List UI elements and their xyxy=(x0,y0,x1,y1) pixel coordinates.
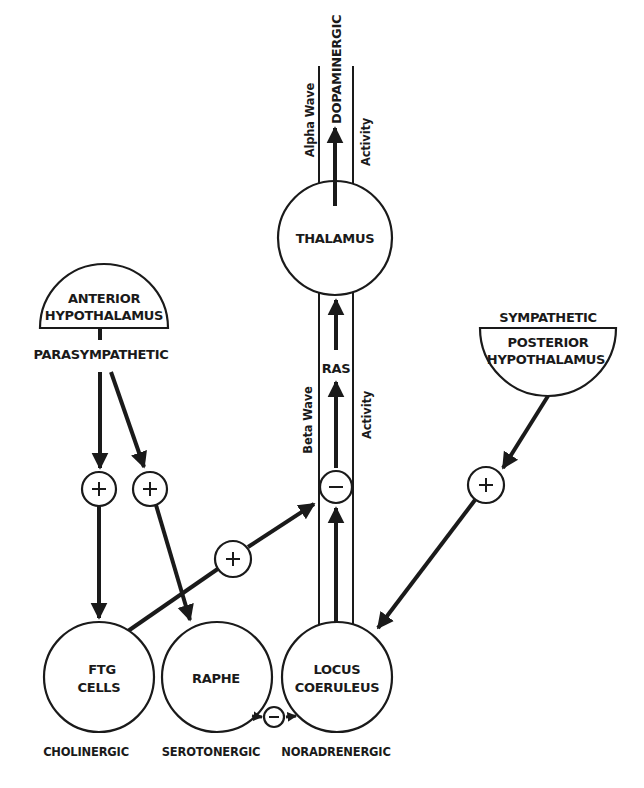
thalamus-label: THALAMUS xyxy=(296,231,375,246)
plus-to-ras-arrow xyxy=(248,504,314,547)
plus-to-raphe-arrow xyxy=(156,505,190,620)
beta-wave-label: Beta Wave xyxy=(301,386,315,454)
noradrenergic-label: NORADRENERGIC xyxy=(281,745,390,759)
dopaminergic-label: DOPAMINERGIC xyxy=(329,15,344,124)
activity-mid-label: Activity xyxy=(360,390,374,439)
activity-top-label: Activity xyxy=(359,117,373,166)
plus-to-locus-arrow xyxy=(378,500,475,628)
brain-arousal-diagram: DOPAMINERGIC Alpha Wave Activity RAS Bet… xyxy=(0,0,644,788)
ftg-line2: CELLS xyxy=(78,680,121,695)
anterior-hypothalamus-node: ANTERIOR HYPOTHALAMUS PARASYMPATHETIC xyxy=(34,264,169,362)
sympathetic-label: SYMPATHETIC xyxy=(499,310,597,325)
posterior-hypothalamus-line2: HYPOTHALAMUS xyxy=(487,352,605,367)
locus-line2: COERULEUS xyxy=(295,680,379,695)
ftg-cells-node: FTG CELLS xyxy=(44,622,154,732)
parasym-to-plus-right-arrow xyxy=(111,372,144,467)
alpha-wave-label: Alpha Wave xyxy=(303,82,317,157)
parasympathetic-label: PARASYMPATHETIC xyxy=(34,347,169,362)
dopaminergic-channel: DOPAMINERGIC Alpha Wave Activity xyxy=(303,15,373,206)
thalamus-node: THALAMUS xyxy=(278,181,392,295)
anterior-hypothalamus-line1: ANTERIOR xyxy=(68,291,140,306)
posterior-to-plus-arrow xyxy=(503,396,548,468)
ras-label: RAS xyxy=(322,361,351,376)
locus-line1: LOCUS xyxy=(314,662,361,677)
ftg-line1: FTG xyxy=(88,662,116,677)
posterior-hypothalamus-line1: POSTERIOR xyxy=(508,335,589,350)
anterior-hypothalamus-line2: HYPOTHALAMUS xyxy=(45,308,163,323)
posterior-hypothalamus-node: SYMPATHETIC POSTERIOR HYPOTHALAMUS xyxy=(480,310,616,396)
serotonergic-label: SEROTONERGIC xyxy=(162,745,260,759)
cholinergic-label: CHOLINERGIC xyxy=(43,745,129,759)
locus-coeruleus-node: LOCUS COERULEUS xyxy=(282,622,392,732)
raphe-label: RAPHE xyxy=(192,671,240,686)
ras-tube: RAS Beta Wave Activity xyxy=(301,292,374,626)
